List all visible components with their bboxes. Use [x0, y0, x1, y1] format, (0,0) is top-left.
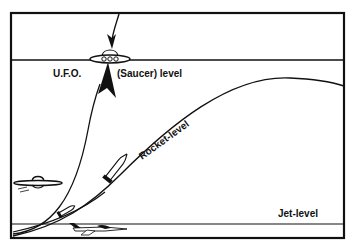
arrowhead-up-icon — [98, 62, 116, 98]
saucer-level-label: (Saucer) level — [117, 68, 182, 79]
jet-level-label: Jet-level — [278, 208, 318, 219]
jet-plane-icon — [69, 223, 127, 235]
small-flying-saucer-icon — [14, 177, 62, 193]
arrow-down-icon — [107, 14, 119, 49]
flying-saucer-icon — [90, 50, 130, 63]
flight-levels-diagram: U.F.O. (Saucer) level Rocket-level Jet-l… — [0, 0, 354, 249]
rocket-level-label: Rocket-level — [137, 118, 191, 162]
ufo-level-label-prefix: U.F.O. — [53, 68, 82, 79]
ufo-trajectory — [13, 84, 100, 234]
